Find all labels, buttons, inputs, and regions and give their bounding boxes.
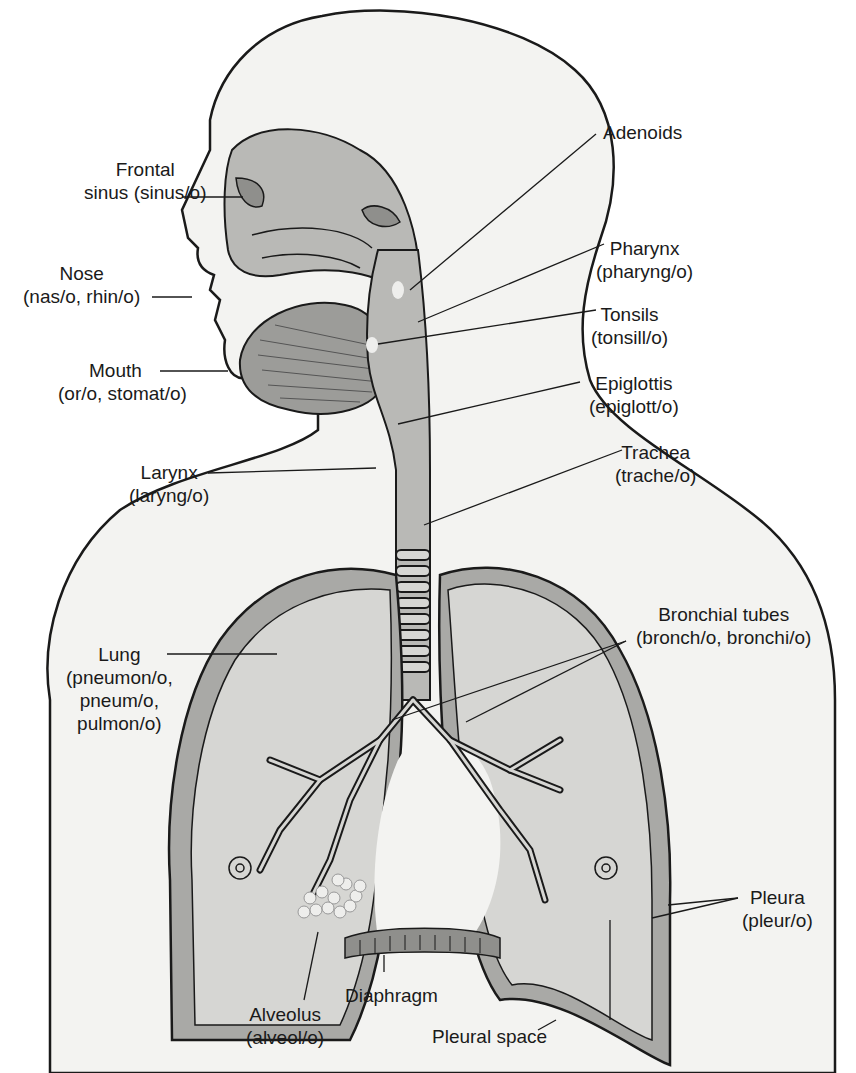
label-tonsils: Tonsils (tonsill/o)	[591, 303, 668, 349]
label-alveolus: Alveolus (alveol/o)	[246, 1003, 324, 1049]
label-lung: Lung (pneumon/o, pneum/o, pulmon/o)	[66, 643, 173, 735]
label-trachea: Trachea (trache/o)	[615, 441, 696, 487]
label-pleural-space: Pleural space	[432, 1025, 547, 1048]
label-epiglottis: Epiglottis (epiglott/o)	[589, 372, 679, 418]
label-pharynx: Pharynx (pharyng/o)	[596, 237, 693, 283]
label-larynx: Larynx (laryng/o)	[129, 461, 209, 507]
label-diaphragm: Diaphragm	[345, 984, 438, 1007]
label-adenoids: Adenoids	[603, 121, 682, 144]
label-frontal-sinus: Frontal sinus (sinus/o)	[84, 158, 207, 204]
adenoids-shape	[392, 281, 404, 299]
tonsils-shape	[366, 337, 378, 353]
label-bronchial-tubes: Bronchial tubes (bronch/o, bronchi/o)	[636, 603, 811, 649]
label-mouth: Mouth (or/o, stomat/o)	[58, 359, 187, 405]
label-nose: Nose (nas/o, rhin/o)	[23, 262, 140, 308]
respiratory-diagram: Frontal sinus (sinus/o) Nose (nas/o, rhi…	[0, 0, 856, 1073]
label-pleura: Pleura (pleur/o)	[742, 886, 813, 932]
